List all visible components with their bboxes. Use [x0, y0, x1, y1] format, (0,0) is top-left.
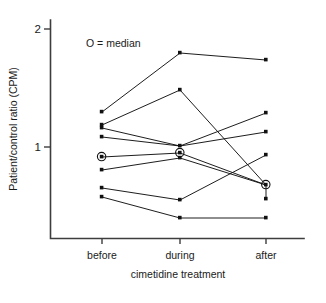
data-point [100, 186, 104, 190]
data-point [264, 197, 268, 201]
xtick-label-before: before [87, 249, 117, 261]
median-markers-group [97, 148, 270, 188]
data-point [264, 58, 268, 62]
series-lines-group [102, 53, 266, 218]
data-point [100, 168, 104, 172]
series-line-patient-8 [102, 197, 266, 218]
data-point [264, 130, 268, 134]
data-point [100, 126, 104, 130]
data-point [178, 151, 182, 155]
ytick-label-1: 1 [35, 141, 41, 153]
xtick-label-during: during [165, 249, 194, 261]
series-line-patient-2 [102, 90, 266, 185]
ytick-label-2: 2 [35, 23, 41, 35]
data-point [100, 195, 104, 199]
data-point [178, 198, 182, 202]
chart-figure: 2 1 Patient/control ratio (CPM) O = medi… [0, 0, 326, 303]
data-point [100, 155, 104, 159]
data-point [264, 183, 268, 187]
xtick-label-after: after [255, 249, 277, 261]
data-point [100, 135, 104, 139]
median-legend-label: O = median [86, 37, 141, 49]
data-point [100, 110, 104, 114]
data-point [264, 216, 268, 220]
data-point [178, 88, 182, 92]
median-legend: O = median [86, 37, 141, 49]
series-line-patient-1 [102, 53, 266, 112]
data-point [178, 216, 182, 220]
data-point [178, 144, 182, 148]
data-points-group [100, 51, 268, 220]
axis-frame [51, 20, 305, 239]
data-point [264, 111, 268, 115]
x-axis-title: cimetidine treatment [131, 268, 226, 280]
series-line-patient-6 [102, 158, 266, 185]
data-point [178, 51, 182, 55]
line-chart-canvas: 2 1 Patient/control ratio (CPM) O = medi… [0, 0, 326, 303]
data-point [264, 153, 268, 157]
y-axis-title: Patient/control ratio (CPM) [7, 67, 19, 191]
series-line-patient-3 [102, 113, 266, 146]
